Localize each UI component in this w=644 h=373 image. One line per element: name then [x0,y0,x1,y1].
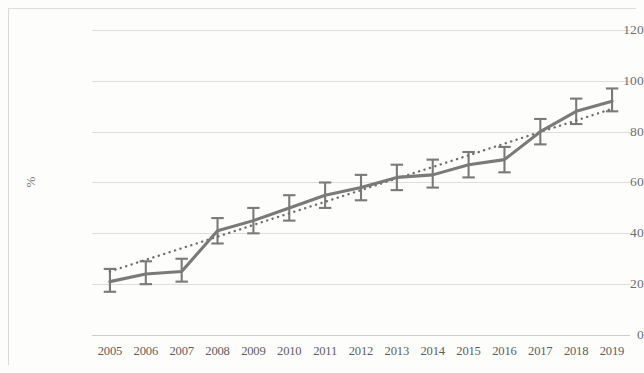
plot-area [0,0,644,373]
x-tick-label-2008: 2008 [200,344,236,366]
x-tick-label-2019: 2019 [594,344,630,366]
x-tick-label-2009: 2009 [235,344,271,366]
x-tick-label-2010: 2010 [271,344,307,366]
x-tick-label-2006: 2006 [128,344,164,366]
x-tick-label-2014: 2014 [415,344,451,366]
error-bars-group [104,88,619,291]
x-tick-label-2007: 2007 [164,344,200,366]
x-tick-label-2018: 2018 [558,344,594,366]
x-axis-labels: 2005 2006 2007 2008 2009 2010 2011 2012 … [92,344,630,366]
x-tick-label-2016: 2016 [486,344,522,366]
x-tick-label-2005: 2005 [92,344,128,366]
x-tick-label-2012: 2012 [343,344,379,366]
x-tick-label-2013: 2013 [379,344,415,366]
x-tick-label-2017: 2017 [522,344,558,366]
x-tick-label-2011: 2011 [307,344,343,366]
x-tick-label-2015: 2015 [451,344,487,366]
line-chart: 120 100 80 60 40 20 0 % 2005 2006 2007 2… [0,0,644,373]
